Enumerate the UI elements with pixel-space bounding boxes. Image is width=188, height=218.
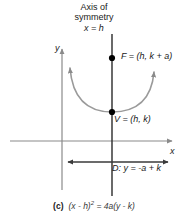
- figure-caption-tag: (c): [53, 201, 63, 211]
- focus-label: F = (h, k + a): [121, 52, 172, 61]
- caption-equation-suffix: = 4a(y - k): [94, 201, 135, 211]
- caption-equation-prefix: (x - h): [69, 201, 91, 211]
- y-axis-label: y: [55, 44, 60, 53]
- figure-caption: (c)(x - h)2 = 4a(y - k): [0, 200, 188, 211]
- figure-caption-equation: (x - h)2 = 4a(y - k): [69, 201, 135, 211]
- directrix-label: D: y = -a + k: [112, 164, 161, 173]
- parabola-figure: Axis of symmetry x = h: [0, 0, 188, 218]
- parabola-graphic: [0, 0, 188, 218]
- x-axis-label: x: [170, 147, 175, 156]
- vertex-label: V = (h, k): [114, 115, 151, 124]
- focus-point: [109, 55, 115, 61]
